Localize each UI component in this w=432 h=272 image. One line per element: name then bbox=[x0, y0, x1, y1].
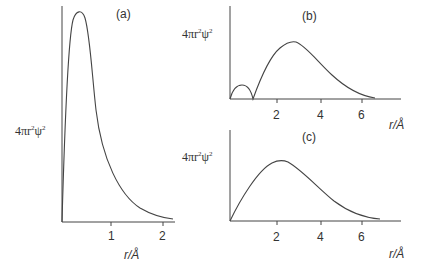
panel-b: (b) 4πr2ψ2 2 4 6 r/Å bbox=[182, 6, 404, 132]
panel-a-tick-label-1: 1 bbox=[108, 229, 115, 243]
panel-b-tick-label-6: 6 bbox=[358, 108, 365, 122]
panel-a: (a) 4πr2ψ2 1 2 r/Å bbox=[15, 6, 175, 262]
panel-b-title: (b) bbox=[302, 9, 317, 23]
panel-c-xlabel: r/Å bbox=[389, 246, 404, 261]
radial-distribution-figure: (a) 4πr2ψ2 1 2 r/Å (b) 4πr2ψ2 2 4 6 r/Å … bbox=[0, 0, 432, 272]
panel-a-ylabel: 4πr2ψ2 bbox=[15, 124, 46, 138]
panel-c: (c) 4πr2ψ2 2 4 6 r/Å bbox=[182, 130, 404, 261]
panel-c-tick-label-2: 2 bbox=[273, 230, 280, 244]
panel-c-tick-label-6: 6 bbox=[358, 230, 365, 244]
panel-b-xlabel: r/Å bbox=[389, 117, 404, 132]
panel-b-ylabel: 4πr2ψ2 bbox=[182, 27, 213, 41]
panel-c-ylabel: 4πr2ψ2 bbox=[182, 150, 213, 164]
panel-b-tick-label-2: 2 bbox=[273, 108, 280, 122]
panel-b-curve bbox=[230, 42, 375, 99]
panel-a-xlabel: r/Å bbox=[124, 247, 139, 262]
panel-a-curve bbox=[62, 12, 173, 222]
panel-b-tick-label-4: 4 bbox=[317, 108, 324, 122]
panel-a-tick-label-2: 2 bbox=[159, 229, 166, 243]
panel-a-title: (a) bbox=[116, 7, 131, 21]
panel-c-curve bbox=[230, 161, 380, 221]
panel-c-tick-label-4: 4 bbox=[317, 230, 324, 244]
panel-c-title: (c) bbox=[302, 130, 316, 144]
